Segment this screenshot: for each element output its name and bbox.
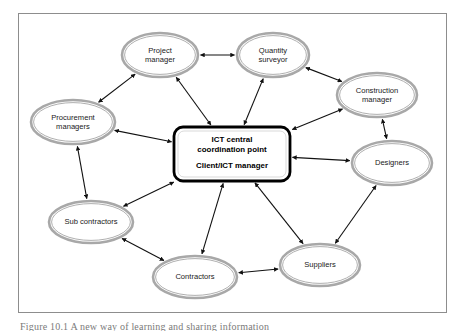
edge-project-manager-to-ict-central-coordination-point [176,77,211,125]
node-label-construction-manager: Construction [356,86,399,95]
edge-designers-to-ict-central-coordination-point [293,157,350,160]
node-contractors[interactable]: Contractors [153,256,237,298]
edge-construction-manager-to-ict-central-coordination-point [292,109,342,129]
edge-sub-contractors-to-procurement-managers [77,146,86,198]
edge-project-manager-to-procurement-managers [99,74,136,102]
center-label-line3: Client/ICT manager [196,161,268,170]
edge-designers-to-suppliers [335,186,376,244]
node-procurement-managers[interactable]: Procurementmanagers [31,100,115,144]
node-suppliers[interactable]: Suppliers [280,244,360,286]
figure-caption: Figure 10.1 A new way of learning and sh… [20,321,440,331]
node-label2-project-manager: manager [145,55,175,64]
center-label-line1: ICT central [212,135,253,144]
edge-contractors-to-sub-contractors [122,238,164,260]
edge-sub-contractors-to-ict-central-coordination-point [123,182,173,206]
node-label2-procurement-managers: managers [56,122,90,131]
node-label-procurement-managers: Procurement [51,113,95,122]
node-sub-contractors[interactable]: Sub contractors [49,201,133,243]
edge-suppliers-to-contractors [239,269,278,273]
relationship-diagram: ProjectmanagerQuantitysurveyorConstructi… [0,0,463,331]
node-label-quantity-surveyor: Quantity [259,46,287,55]
edge-quantity-surveyor-to-ict-central-coordination-point [244,79,263,125]
edge-construction-manager-to-designers [382,119,386,138]
figure-container: ProjectmanagerQuantitysurveyorConstructi… [0,0,463,331]
edge-contractors-to-ict-central-coordination-point [202,183,223,253]
center-node-layer: ICT centralcoordination pointClient/ICT … [174,127,290,181]
center-label-line2: coordination point [197,145,267,154]
node-label-contractors: Contractors [175,272,214,281]
node-label2-construction-manager: manager [362,95,392,104]
node-designers[interactable]: Designers [352,141,432,185]
node-label-suppliers: Suppliers [304,260,336,269]
node-label2-quantity-surveyor: surveyor [258,55,288,64]
node-label-designers: Designers [375,158,409,167]
node-label-sub-contractors: Sub contractors [64,217,117,226]
center-node-ict-central-coordination-point[interactable]: ICT centralcoordination pointClient/ICT … [174,127,290,181]
node-label-project-manager: Project [148,46,173,55]
edge-procurement-managers-to-ict-central-coordination-point [115,130,172,141]
edge-quantity-surveyor-to-construction-manager [306,68,342,82]
edge-suppliers-to-ict-central-coordination-point [255,183,303,244]
node-project-manager[interactable]: Projectmanager [122,33,198,77]
node-construction-manager[interactable]: Constructionmanager [337,73,417,117]
node-quantity-surveyor[interactable]: Quantitysurveyor [237,33,309,77]
